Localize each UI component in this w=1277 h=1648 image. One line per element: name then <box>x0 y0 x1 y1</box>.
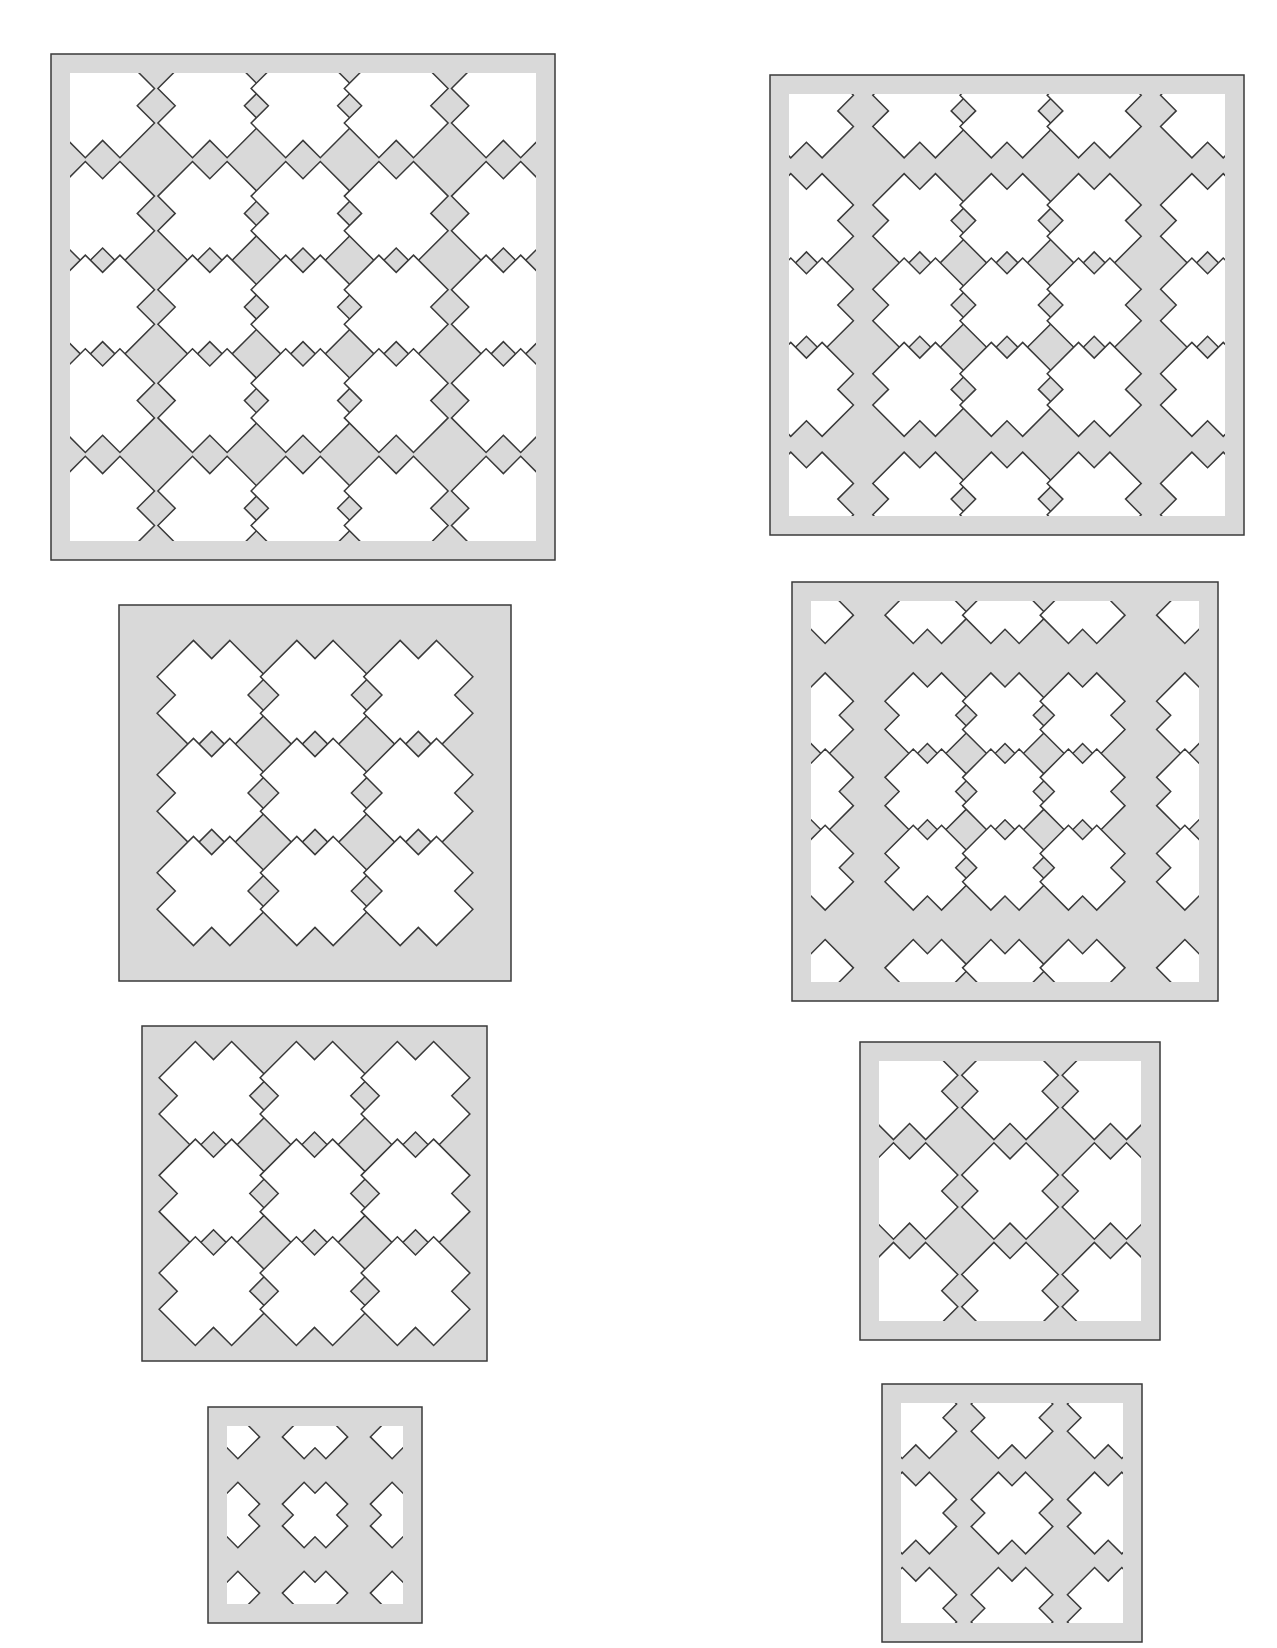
plate-panel-5x5-chamfered-edges <box>769 74 1245 536</box>
plate-panel-3x3-triangle-edges <box>207 1406 423 1624</box>
plate-panel-5x5-triangle-edges <box>791 581 1219 1002</box>
plate-panel-3x3-chamfered-edges <box>881 1383 1143 1643</box>
plate-panel-3x3-cut-edges <box>859 1041 1161 1341</box>
plate-panel-3x3-full-crosses <box>118 604 512 982</box>
plate-panel-3x3-full-crosses-small <box>141 1025 488 1362</box>
plate-panel-5x5-cut-edges <box>50 53 556 561</box>
